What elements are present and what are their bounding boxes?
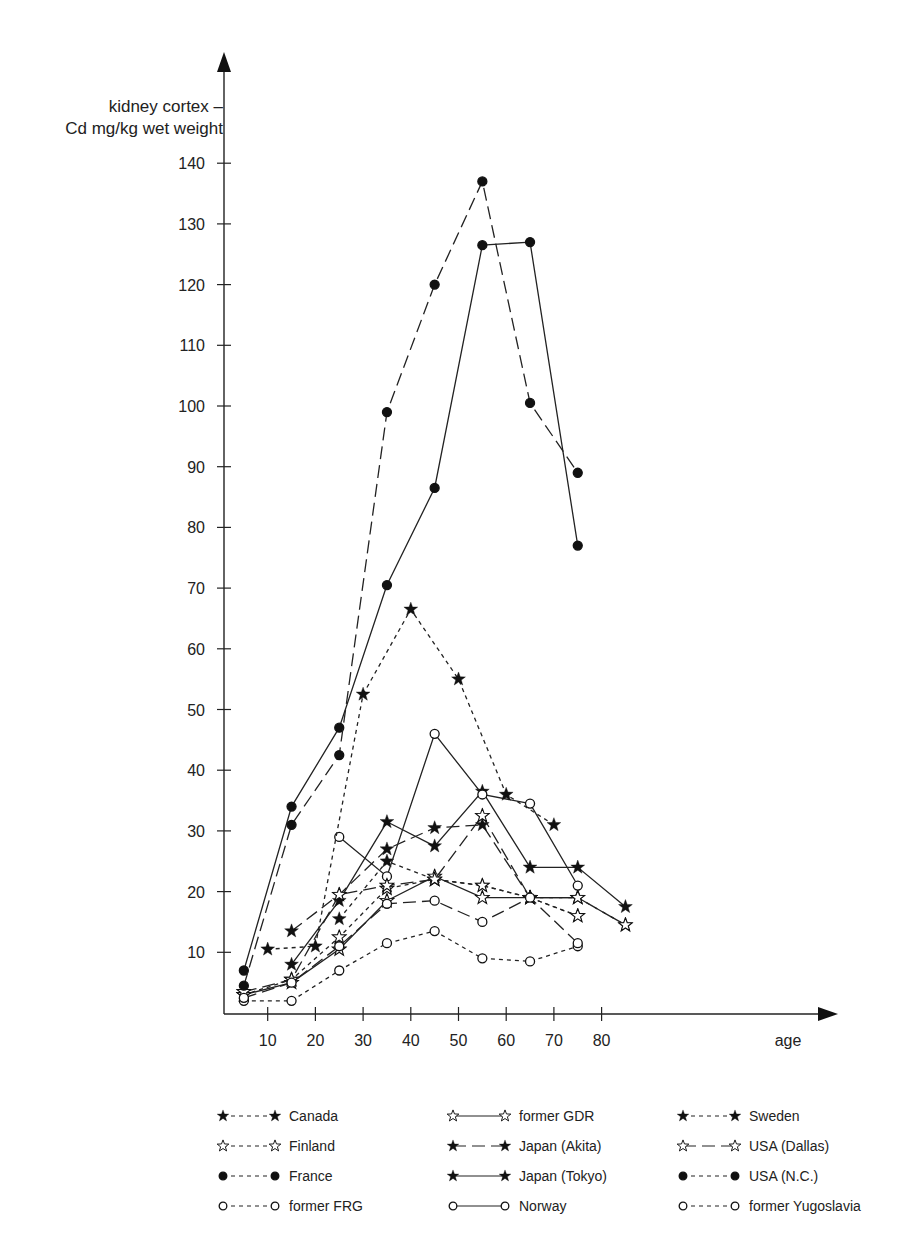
filled-star-icon [547, 818, 561, 831]
legend-swatch-icon [675, 1196, 743, 1216]
filled-dot-icon [335, 751, 344, 760]
y-axis-arrow-icon [217, 52, 231, 72]
series-former-yugoslavia [239, 893, 582, 1002]
open-dot-icon [335, 966, 344, 975]
x-tick-label: 60 [497, 1032, 515, 1049]
open-dot-icon [573, 881, 582, 890]
filled-dot-icon [526, 398, 535, 407]
filled-star-icon [285, 924, 299, 937]
filled-dot-icon [382, 408, 391, 417]
legend-label: Japan (Tokyo) [519, 1168, 607, 1184]
x-tick-label: 70 [545, 1032, 563, 1049]
legend-item-norway: Norway [445, 1195, 566, 1217]
legend-swatch-icon [675, 1166, 743, 1186]
open-dot-icon [239, 993, 248, 1002]
y-tick-label: 90 [187, 459, 205, 476]
filled-star-icon [499, 1140, 511, 1151]
filled-dot-icon [271, 1172, 279, 1180]
open-dot-icon [478, 917, 487, 926]
legend-item-france: France [215, 1165, 333, 1187]
x-axis-label: age [775, 1032, 802, 1049]
legend-item-sweden: Sweden [675, 1105, 800, 1127]
legend-item-japan-tokyo: Japan (Tokyo) [445, 1165, 607, 1187]
x-tick-label: 50 [450, 1032, 468, 1049]
filled-dot-icon [478, 177, 487, 186]
filled-star-icon [380, 815, 394, 828]
legend-item-usa-dallas: USA (Dallas) [675, 1135, 829, 1157]
open-star-icon [475, 878, 489, 891]
y-tick-label: 140 [178, 155, 205, 172]
open-dot-icon [478, 954, 487, 963]
y-tick-label: 20 [187, 884, 205, 901]
filled-star-icon [332, 912, 346, 925]
legend-label: USA (N.C.) [749, 1168, 818, 1184]
filled-star-icon [499, 1170, 511, 1181]
open-dot-icon [501, 1202, 509, 1210]
open-star-icon [571, 909, 585, 922]
y-tick-label: 130 [178, 216, 205, 233]
filled-dot-icon [679, 1172, 687, 1180]
open-dot-icon [335, 942, 344, 951]
filled-star-icon [356, 687, 370, 700]
open-dot-icon [430, 729, 439, 738]
open-dot-icon [679, 1202, 687, 1210]
x-tick-label: 40 [402, 1032, 420, 1049]
x-tick-label: 30 [354, 1032, 372, 1049]
x-tick-label: 10 [259, 1032, 277, 1049]
open-dot-icon [219, 1202, 227, 1210]
legend-label: former GDR [519, 1108, 594, 1124]
filled-star-icon [404, 602, 418, 615]
legend-swatch-icon [215, 1106, 283, 1126]
filled-star-icon [677, 1110, 689, 1121]
open-star-icon [729, 1140, 741, 1151]
axes: 1020304050607080901001101201301401020304… [178, 52, 838, 1049]
filled-dot-icon [478, 241, 487, 250]
open-dot-icon [271, 1202, 279, 1210]
filled-star-icon [217, 1110, 229, 1121]
y-tick-label: 80 [187, 519, 205, 536]
legend-swatch-icon [445, 1196, 513, 1216]
legend-swatch-icon [675, 1136, 743, 1156]
legend-swatch-icon [445, 1106, 513, 1126]
x-tick-label: 80 [593, 1032, 611, 1049]
legend-item-usa-n-c: USA (N.C.) [675, 1165, 818, 1187]
open-dot-icon [526, 957, 535, 966]
legend-item-former-frg: former FRG [215, 1195, 363, 1217]
filled-star-icon [523, 860, 537, 873]
filled-dot-icon [731, 1172, 739, 1180]
legend-swatch-icon [215, 1136, 283, 1156]
open-star-icon [217, 1140, 229, 1151]
filled-dot-icon [219, 1172, 227, 1180]
open-dot-icon [382, 939, 391, 948]
open-dot-icon [430, 896, 439, 905]
open-dot-icon [731, 1202, 739, 1210]
legend-item-former-yugoslavia: former Yugoslavia [675, 1195, 861, 1217]
x-axis-arrow-icon [818, 1007, 838, 1021]
legend-swatch-icon [675, 1106, 743, 1126]
legend-swatch-icon [445, 1136, 513, 1156]
legend-swatch-icon [445, 1166, 513, 1186]
legend-item-finland: Finland [215, 1135, 335, 1157]
legend-item-former-gdr: former GDR [445, 1105, 594, 1127]
open-dot-icon [478, 790, 487, 799]
filled-star-icon [452, 672, 466, 685]
y-tick-label: 120 [178, 277, 205, 294]
filled-dot-icon [430, 483, 439, 492]
legend-label: former Yugoslavia [749, 1198, 861, 1214]
legend-label: Japan (Akita) [519, 1138, 601, 1154]
filled-star-icon [447, 1170, 459, 1181]
y-tick-label: 50 [187, 702, 205, 719]
legend-label: Canada [289, 1108, 338, 1124]
legend-label: USA (Dallas) [749, 1138, 829, 1154]
filled-star-icon [261, 942, 275, 955]
series-norway [335, 729, 583, 890]
filled-dot-icon [287, 820, 296, 829]
y-tick-label: 30 [187, 823, 205, 840]
legend-label: Sweden [749, 1108, 800, 1124]
legend-label: France [289, 1168, 333, 1184]
filled-dot-icon [573, 468, 582, 477]
open-dot-icon [287, 978, 296, 987]
open-star-icon [269, 1140, 281, 1151]
filled-dot-icon [430, 280, 439, 289]
legend-label: Finland [289, 1138, 335, 1154]
